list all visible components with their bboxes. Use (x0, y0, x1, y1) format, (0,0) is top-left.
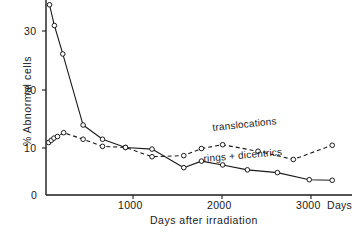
data-point-marker (52, 23, 57, 28)
x-tick-label-2000: 2000 (207, 199, 232, 211)
series-translocations (46, 130, 334, 161)
data-point-marker (245, 168, 250, 173)
data-point-marker (150, 154, 155, 159)
data-point-marker (330, 143, 335, 148)
data-point-marker (330, 178, 335, 183)
x-axis-unit-label: Days (327, 199, 352, 211)
data-point-marker (55, 134, 60, 139)
data-point-marker (182, 153, 187, 158)
data-point-marker (47, 2, 52, 7)
y-tick-label-30: 30 (24, 25, 36, 37)
data-point-marker (307, 177, 312, 182)
data-point-marker (291, 157, 296, 162)
data-point-marker (220, 142, 225, 147)
y-axis-title: % Abnormal cells (21, 41, 33, 161)
series-line (50, 5, 333, 180)
data-point-marker (220, 163, 225, 168)
data-point-marker (60, 52, 65, 57)
figure-container: 30 20 10 0 1000 2000 3000 Days % Abnorma… (0, 0, 357, 236)
series-rings-dicentrics (47, 2, 334, 182)
x-tick-label-1000: 1000 (118, 199, 143, 211)
data-point-marker (81, 123, 86, 128)
data-point-marker (100, 137, 105, 142)
data-point-marker (150, 147, 155, 152)
data-point-marker (199, 146, 204, 151)
data-point-marker (123, 145, 128, 150)
x-axis-title: Days after irradiation (150, 214, 258, 226)
data-point-marker (81, 137, 86, 142)
data-point-marker (100, 144, 105, 149)
data-point-marker (182, 165, 187, 170)
data-point-marker (275, 170, 280, 175)
y-tick-label-0: 0 (31, 189, 37, 201)
series-line (49, 133, 333, 160)
data-point-marker (61, 130, 66, 135)
x-tick-label-3000: 3000 (296, 199, 321, 211)
